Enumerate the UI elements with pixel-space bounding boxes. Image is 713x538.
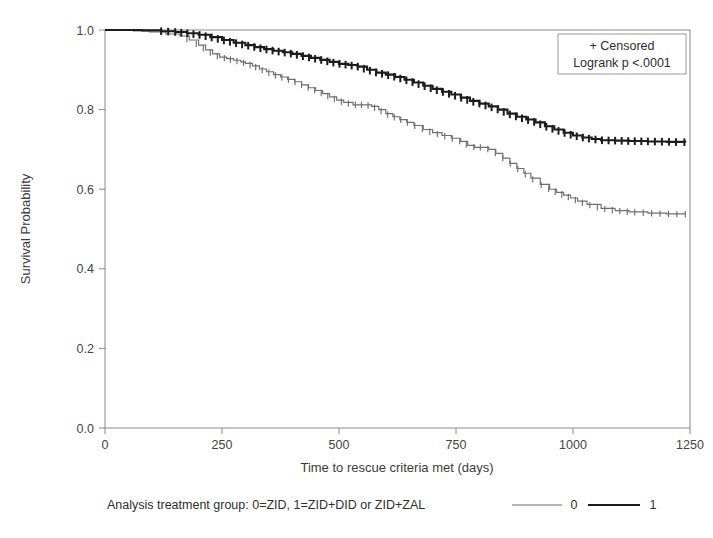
censored-label: + Censored [590, 39, 655, 53]
legend-label-1: 1 [650, 498, 657, 512]
plot-frame [105, 30, 690, 428]
x-tick-label: 750 [446, 438, 467, 452]
logrank-label: Logrank p <.0001 [573, 56, 671, 70]
x-tick-label: 0 [102, 438, 109, 452]
bottom-legend-title: Analysis treatment group: 0=ZID, 1=ZID+D… [107, 498, 425, 512]
x-axis: 025050075010001250 [102, 428, 704, 452]
x-tick-label: 1000 [559, 438, 587, 452]
y-axis-title: Survival Probability [18, 173, 33, 284]
x-axis-title: Time to rescue criteria met (days) [300, 460, 493, 475]
legend-label-0: 0 [571, 498, 578, 512]
y-tick-label: 1.0 [77, 24, 94, 38]
bottom-legend: Analysis treatment group: 0=ZID, 1=ZID+D… [107, 498, 657, 512]
y-tick-label: 0.8 [77, 103, 94, 117]
y-tick-label: 0.0 [77, 422, 94, 436]
km-survival-figure: 0.00.20.40.60.81.0 025050075010001250 Su… [0, 0, 713, 538]
censored-legend-box: + Censored Logrank p <.0001 [558, 34, 686, 74]
y-tick-label: 0.4 [77, 262, 94, 276]
y-axis: 0.00.20.40.60.81.0 [77, 24, 105, 436]
y-tick-label: 0.2 [77, 342, 94, 356]
y-tick-label: 0.6 [77, 183, 94, 197]
km-plot-svg: 0.00.20.40.60.81.0 025050075010001250 Su… [0, 0, 713, 538]
x-tick-label: 1250 [676, 438, 704, 452]
x-tick-label: 500 [329, 438, 350, 452]
x-tick-label: 250 [212, 438, 233, 452]
